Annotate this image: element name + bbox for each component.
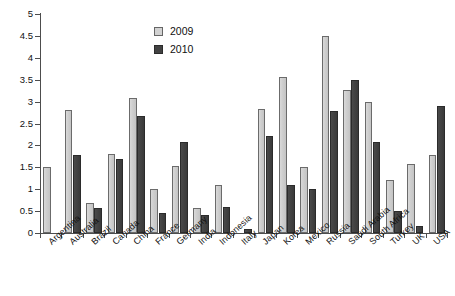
- y-axis-tick-label: 1.5: [0, 162, 33, 172]
- bar-argentina-2009: [43, 167, 51, 233]
- bar-canada-2009: [108, 154, 116, 233]
- light-gray-swatch-icon: [154, 27, 163, 36]
- bar-south-africa-2009: [365, 102, 373, 233]
- x-axis-tick: [40, 233, 41, 238]
- bar-korea-2009: [279, 77, 287, 233]
- bar-australia-2009: [65, 110, 73, 233]
- bar-usa-2009: [429, 155, 437, 233]
- y-axis-tick: [35, 14, 40, 15]
- y-axis-tick-label: 1: [0, 184, 33, 194]
- bar-russia-2010: [330, 111, 338, 233]
- bar-canada-2010: [116, 159, 124, 233]
- legend-label-2010: 2010: [170, 44, 193, 55]
- dark-gray-swatch-icon: [154, 45, 163, 54]
- x-axis-label-italy: Italy: [240, 229, 259, 247]
- y-axis-tick-label: 3: [0, 97, 33, 107]
- bar-germany-2010: [180, 142, 188, 233]
- legend-item-2009: 2009: [154, 24, 193, 39]
- bar-mexico-2010: [309, 189, 317, 233]
- bar-korea-2010: [287, 185, 295, 233]
- y-axis-tick-label: 5: [0, 9, 33, 19]
- y-axis-tick-label: 2.5: [0, 119, 33, 129]
- y-axis-tick: [35, 124, 40, 125]
- bar-usa-2010: [437, 106, 445, 233]
- y-axis-line: [40, 13, 41, 234]
- legend-item-2010: 2010: [154, 42, 193, 57]
- y-axis-tick: [35, 167, 40, 168]
- bar-saudi-arabia-2009: [343, 90, 351, 233]
- y-axis-tick-label: 0.5: [0, 206, 33, 216]
- y-axis-tick: [35, 102, 40, 103]
- y-axis-tick: [35, 189, 40, 190]
- bar-china-2010: [137, 116, 145, 233]
- y-axis-tick: [35, 145, 40, 146]
- bar-chart: 00.511.522.533.544.55 ArgentinaAustralia…: [0, 0, 455, 296]
- bar-japan-2009: [258, 109, 266, 233]
- bar-russia-2009: [322, 36, 330, 233]
- y-axis-tick: [35, 80, 40, 81]
- y-axis-tick: [35, 211, 40, 212]
- y-axis-tick: [35, 36, 40, 37]
- bar-saudi-arabia-2010: [351, 80, 359, 233]
- chart-legend: 2009 2010: [154, 24, 193, 60]
- y-axis-tick-label: 0: [0, 228, 33, 238]
- y-axis-tick-label: 3.5: [0, 75, 33, 85]
- y-axis-tick: [35, 58, 40, 59]
- y-axis-tick-label: 4.5: [0, 31, 33, 41]
- bar-japan-2010: [266, 136, 274, 233]
- bar-china-2009: [129, 98, 137, 233]
- y-axis-tick-label: 4: [0, 53, 33, 63]
- y-axis-tick-label: 2: [0, 140, 33, 150]
- legend-label-2009: 2009: [170, 26, 193, 37]
- bar-indonesia-2009: [215, 185, 223, 233]
- bar-mexico-2009: [300, 167, 308, 233]
